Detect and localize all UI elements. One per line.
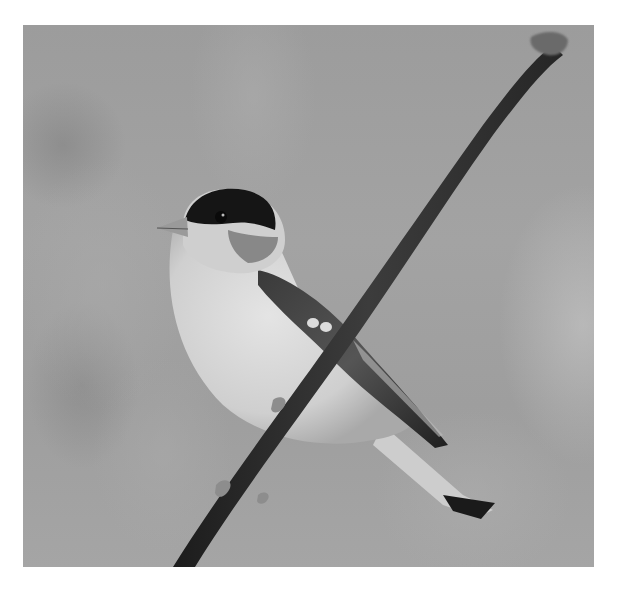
bird-eye xyxy=(215,211,227,223)
bird-illustration xyxy=(23,25,594,567)
bird-photo xyxy=(23,25,594,567)
bird-head xyxy=(183,189,285,273)
